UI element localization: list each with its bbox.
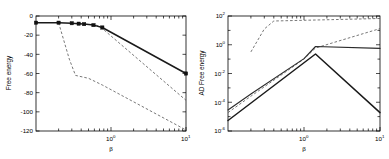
right-ytick-label-0: 102 [216, 11, 226, 19]
svg-text:10-4: 10-4 [214, 98, 225, 106]
svg-text:100: 100 [299, 134, 309, 142]
right-ytick-label-1: 100 [216, 40, 226, 48]
left-axes-frame [36, 16, 186, 131]
svg-text:10-6: 10-6 [214, 126, 225, 134]
right-series-solid-plateau [228, 47, 380, 111]
right-y-ticks [228, 16, 380, 131]
left-xtick-label-0: 100 [106, 134, 116, 142]
left-plot-svg: 0 -20 -40 -60 -80 -100 -120 [0, 0, 194, 159]
svg-text:101: 101 [375, 134, 385, 142]
chart-panel-left: 0 -20 -40 -60 -80 -100 -120 [0, 0, 194, 159]
right-series-solid-peak [228, 54, 380, 121]
left-x-ticks [59, 16, 186, 131]
right-series-dashed-rising [228, 29, 380, 113]
right-ytick-label-2: 10-2 [214, 69, 225, 77]
svg-text:100: 100 [106, 134, 116, 142]
left-yaxis-label: Free energy [5, 55, 13, 90]
left-series-markers [34, 21, 187, 75]
svg-text:10-2: 10-2 [214, 69, 225, 77]
svg-text:101: 101 [181, 134, 191, 142]
right-axes-frame [228, 16, 380, 131]
left-ytick-label-4: -80 [24, 89, 34, 96]
left-y-ticks [36, 16, 186, 131]
right-plot-svg: 102 100 10-2 10-4 10-6 [195, 0, 389, 159]
left-xaxis-label: β [109, 145, 113, 153]
left-ytick-label-0: 0 [30, 12, 34, 19]
left-series-solid [36, 23, 186, 74]
left-ytick-label-6: -120 [21, 127, 34, 134]
left-ytick-label-3: -60 [24, 70, 34, 77]
right-xaxis-label: β [302, 145, 306, 153]
svg-text:102: 102 [216, 11, 226, 19]
left-ytick-label-1: -20 [24, 31, 34, 38]
right-ytick-label-4: 10-6 [214, 126, 225, 134]
right-xtick-label-1: 101 [375, 134, 385, 142]
right-x-ticks [251, 16, 380, 131]
left-ytick-label-2: -40 [24, 51, 34, 58]
chart-panel-right: 102 100 10-2 10-4 10-6 [195, 0, 389, 159]
figure-container: 0 -20 -40 -60 -80 -100 -120 [0, 0, 389, 159]
right-xtick-label-0: 100 [299, 134, 309, 142]
right-yaxis-label: AD Free energy [198, 50, 206, 96]
left-xtick-label-1: 101 [181, 134, 191, 142]
right-ytick-label-3: 10-4 [214, 98, 225, 106]
left-ytick-label-5: -100 [21, 108, 34, 115]
svg-text:100: 100 [216, 40, 226, 48]
